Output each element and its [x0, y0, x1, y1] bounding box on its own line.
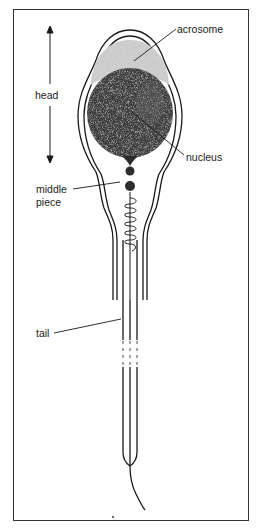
nucleus: [86, 67, 174, 166]
middle-piece-beads: [125, 167, 135, 192]
middle-piece-leader: [73, 182, 120, 189]
sperm-diagram: [0, 0, 258, 528]
label-middle-piece-line2: piece: [36, 196, 61, 208]
mitochondrial-spiral: [125, 192, 136, 300]
label-middle-piece-line1: middle: [36, 183, 67, 195]
label-head: head: [35, 89, 58, 101]
tail: [123, 240, 145, 510]
label-acrosome: acrosome: [177, 23, 223, 35]
label-nucleus: nucleus: [186, 151, 222, 163]
label-tail: tail: [36, 327, 49, 339]
tail-leader: [54, 319, 121, 333]
